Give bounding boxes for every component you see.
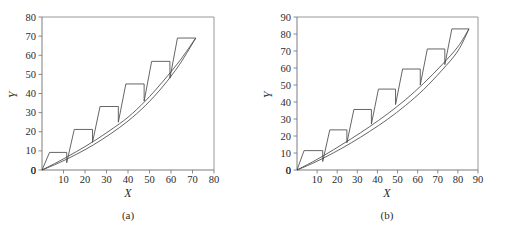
- x-tick-label: 50: [144, 174, 155, 185]
- series-group-b: [297, 29, 469, 170]
- axis-left-bottom-a: [42, 17, 214, 170]
- plot-frame-a: [42, 17, 214, 170]
- x-tick-label: 90: [473, 174, 484, 185]
- y-tick-label: 20: [281, 131, 292, 142]
- x-axis-title-b: X: [382, 186, 391, 200]
- x-tick-label: 80: [209, 174, 220, 185]
- y-ticks-a: [39, 17, 43, 170]
- upper-curve-b: [297, 29, 469, 170]
- x-ticks-b: [317, 170, 478, 174]
- y-tick-label: 60: [26, 50, 37, 61]
- frame-top-right-a: [42, 17, 214, 170]
- y-axis-title-b: Y: [261, 90, 275, 98]
- axis-left-bottom-b: [297, 17, 478, 170]
- chart-svg-a: 01020304050607080 01020304050607080 X Y …: [0, 0, 255, 230]
- y-tick-label: 30: [281, 114, 292, 125]
- x-tick-label: 0: [286, 165, 291, 176]
- y-tick-label: 70: [26, 31, 37, 42]
- x-tick-label: 80: [453, 174, 464, 185]
- figure-container: 01020304050607080 01020304050607080 X Y …: [0, 0, 510, 230]
- x-tick-label: 20: [332, 174, 343, 185]
- x-tick-label: 30: [352, 174, 363, 185]
- x-tick-label: 70: [187, 174, 198, 185]
- chart-panel-a: 01020304050607080 01020304050607080 X Y …: [0, 0, 255, 230]
- x-tick-label: 50: [392, 174, 403, 185]
- y-tick-label: 80: [26, 12, 37, 23]
- y-tick-label: 80: [281, 29, 292, 40]
- y-tick-label: 10: [281, 148, 292, 159]
- y-tick-label: 20: [26, 126, 37, 137]
- x-tick-label: 0: [31, 165, 36, 176]
- panel-caption-b: (b): [381, 209, 394, 222]
- series-group-a: [42, 38, 196, 170]
- panel-caption-a: (a): [122, 209, 135, 222]
- y-tick-label: 30: [26, 107, 37, 118]
- y-tick-labels-a: 01020304050607080: [26, 12, 37, 176]
- x-tick-label: 70: [433, 174, 444, 185]
- y-tick-label: 70: [281, 46, 292, 57]
- x-tick-labels-b: 0102030405060708090: [286, 165, 484, 185]
- upper-curve-a: [42, 38, 196, 170]
- frame-top-right-b: [297, 17, 478, 170]
- x-ticks-a: [64, 170, 215, 174]
- x-tick-label: 60: [412, 174, 423, 185]
- y-tick-label: 50: [281, 80, 292, 91]
- y-tick-label: 50: [26, 69, 37, 80]
- x-axis-title-a: X: [123, 186, 132, 200]
- lower-curve-a: [42, 38, 196, 170]
- staircase-b: [297, 29, 469, 170]
- y-tick-label: 40: [281, 97, 292, 108]
- chart-svg-b: 0102030405060708090 0102030405060708090 …: [255, 0, 510, 230]
- lower-curve-b: [297, 29, 469, 170]
- y-tick-label: 90: [281, 12, 292, 23]
- y-axis-title-a: Y: [6, 90, 20, 98]
- staircase-a: [42, 38, 196, 170]
- x-tick-label: 10: [58, 174, 69, 185]
- x-tick-label: 30: [101, 174, 112, 185]
- chart-panel-b: 0102030405060708090 0102030405060708090 …: [255, 0, 510, 230]
- x-tick-label: 20: [80, 174, 91, 185]
- y-tick-label: 40: [26, 88, 37, 99]
- y-ticks-b: [294, 17, 298, 170]
- y-tick-label: 10: [26, 145, 37, 156]
- plot-frame-b: [297, 17, 478, 170]
- x-tick-labels-a: 01020304050607080: [31, 165, 220, 185]
- x-tick-label: 40: [372, 174, 383, 185]
- y-tick-labels-b: 0102030405060708090: [281, 12, 292, 176]
- x-tick-label: 60: [166, 174, 177, 185]
- y-tick-label: 60: [281, 63, 292, 74]
- x-tick-label: 40: [123, 174, 134, 185]
- x-tick-label: 10: [312, 174, 323, 185]
